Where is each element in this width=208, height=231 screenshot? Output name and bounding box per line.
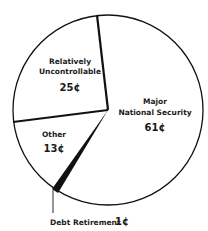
- value-debt: 1¢: [115, 216, 129, 229]
- label-major-line2: National Security: [112, 108, 198, 117]
- value-other: 13¢: [34, 143, 74, 156]
- label-debt: Debt Retirement: [50, 218, 121, 227]
- label-other: Other: [34, 130, 74, 139]
- label-uncontrollable-line2: Uncontrollable: [34, 67, 106, 76]
- label-major-line1: Major: [125, 97, 185, 106]
- value-major: 61¢: [125, 122, 185, 135]
- value-uncontrollable: 25¢: [40, 82, 100, 95]
- label-uncontrollable-line1: Relatively: [40, 57, 100, 66]
